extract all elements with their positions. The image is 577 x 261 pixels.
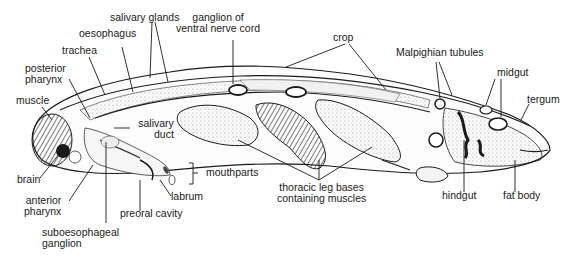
label-anterior-pharynx: anterior pharynx <box>24 195 61 217</box>
label-thoracic-leg-bases: thoracic leg bases containing muscles <box>277 182 366 204</box>
label-brain: brain <box>17 174 40 185</box>
label-line: ventral nerve cord <box>176 23 260 34</box>
label-salivary-glands: salivary glands <box>110 12 179 23</box>
insect-section-drawing <box>0 0 577 261</box>
label-line: containing muscles <box>277 193 366 204</box>
label-malpighian-tubules: Malpighian tubules <box>396 47 484 58</box>
label-fat-body: fat body <box>503 190 540 201</box>
label-midgut: midgut <box>497 67 529 78</box>
label-line: duct <box>130 129 174 140</box>
label-oesophagus: oesophagus <box>79 28 136 39</box>
label-ganglion-ventral-nerve-cord: ganglion of ventral nerve cord <box>176 12 260 34</box>
label-line: pharynx <box>25 74 66 85</box>
label-muscle: muscle <box>16 95 49 106</box>
label-labrum: labrum <box>171 191 203 202</box>
label-mouthparts: mouthparts <box>206 167 259 178</box>
label-salivary-duct: salivary duct <box>130 118 174 140</box>
label-line: ganglion <box>42 238 119 249</box>
label-suboesophageal-ganglion: suboesophageal ganglion <box>42 227 119 249</box>
label-hindgut: hindgut <box>442 190 476 201</box>
label-crop: crop <box>333 32 353 43</box>
label-posterior-pharynx: posterior pharynx <box>25 63 66 85</box>
label-preoral-cavity: preoral cavity <box>120 208 182 219</box>
label-line: pharynx <box>24 206 61 217</box>
label-trachea: trachea <box>62 45 97 56</box>
label-tergum: tergum <box>527 94 560 105</box>
